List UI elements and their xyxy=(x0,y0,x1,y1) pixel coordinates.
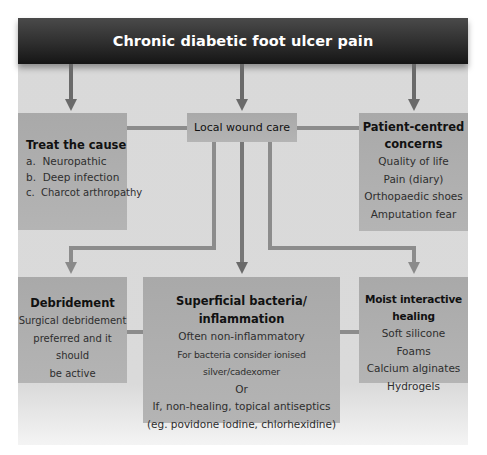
list-item: (eg. povidone iodine, chlorhexidine) xyxy=(143,416,340,434)
node-moist-interactive-healing: Moist interactive healing Soft silicone … xyxy=(359,277,468,383)
root-node-title: Chronic diabetic foot ulcer pain xyxy=(113,33,374,49)
arrow-down-icon xyxy=(65,262,77,274)
node-title: Superficial bacteria/ xyxy=(143,293,340,311)
node-local-wound-care: Local wound care xyxy=(187,113,297,142)
arrow-down-icon xyxy=(65,99,77,111)
list-item: b. Deep infection xyxy=(26,169,127,185)
list-item: Pain (diary) xyxy=(359,171,468,189)
arrow-shaft-center xyxy=(240,64,244,100)
node-superficial-bacteria: Superficial bacteria/ inflammation Often… xyxy=(143,277,340,423)
list-item: Hydrogels xyxy=(359,378,468,396)
node-title: Treat the cause xyxy=(26,138,127,152)
connector-right-drop xyxy=(412,246,416,262)
node-title: concerns xyxy=(359,136,468,153)
connector-local-down-right xyxy=(268,142,272,250)
list-item: Quality of life xyxy=(359,153,468,171)
list-item: be active xyxy=(18,365,127,383)
node-title: Moist interactive healing xyxy=(359,291,468,325)
list-item: c. Charcot arthropathy xyxy=(26,185,127,201)
connector-right-branch xyxy=(268,246,416,250)
list-item: Orthopaedic shoes xyxy=(359,188,468,206)
list-item: Often non-inflammatory xyxy=(143,328,340,346)
list-item: a. Neuropathic xyxy=(26,153,127,169)
list-item: Soft silicone xyxy=(359,325,468,343)
node-debridement: Debridement Surgical debridement preferr… xyxy=(18,277,127,383)
list-item: preferred and it should xyxy=(18,330,127,365)
node-title: inflammation xyxy=(143,311,340,329)
node-title: Patient-centred xyxy=(359,119,468,136)
node-title: Debridement xyxy=(18,295,127,312)
connector-debridement-to-bacteria xyxy=(127,330,143,334)
node-title: Local wound care xyxy=(194,120,290,136)
connector-local-to-patient xyxy=(297,126,359,130)
arrow-down-icon xyxy=(408,99,420,111)
connector-treat-to-local xyxy=(127,126,187,130)
root-node-header: Chronic diabetic foot ulcer pain xyxy=(18,18,468,64)
arrow-down-icon xyxy=(236,262,248,274)
arrow-shaft-right xyxy=(412,64,416,100)
connector-left-drop xyxy=(69,246,73,262)
arrow-shaft-left xyxy=(69,64,73,100)
arrow-down-icon xyxy=(408,262,420,274)
list-item: Or xyxy=(143,381,340,399)
list-item: Foams xyxy=(359,343,468,361)
connector-local-down-left xyxy=(212,142,216,250)
connector-bacteria-to-moist xyxy=(340,330,359,334)
list-item: If, non-healing, topical antiseptics xyxy=(143,398,340,416)
arrow-down-icon xyxy=(236,99,248,111)
connector-local-down-center xyxy=(240,142,244,262)
list-item: Surgical debridement xyxy=(18,312,127,330)
node-patient-centred-concerns: Patient-centred concerns Quality of life… xyxy=(359,113,468,231)
connector-left-branch xyxy=(69,246,216,250)
list-item: For bacteria consider ionised silver/cad… xyxy=(143,346,340,381)
list-item: Calcium alginates xyxy=(359,360,468,378)
list-item: Amputation fear xyxy=(359,206,468,224)
node-treat-the-cause: Treat the cause a. Neuropathic b. Deep i… xyxy=(18,113,127,230)
